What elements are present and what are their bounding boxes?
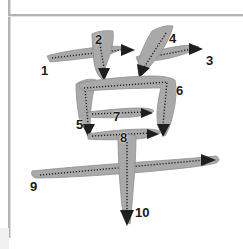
stroke-number-4: 4 (169, 32, 176, 45)
stroke-number-10: 10 (135, 206, 149, 219)
stroke-7 (88, 108, 154, 118)
stroke-number-9: 9 (30, 180, 37, 193)
stroke-6 (79, 76, 176, 137)
character-strokes (0, 0, 243, 249)
stroke-1 (47, 44, 135, 62)
stroke-number-1: 1 (41, 64, 48, 77)
stroke-10 (118, 135, 136, 227)
stroke-number-8: 8 (120, 131, 127, 144)
stroke-number-3: 3 (206, 54, 213, 67)
stroke-number-7: 7 (113, 110, 120, 123)
stroke-arrow-1 (121, 44, 135, 56)
stroke-arrow-10 (120, 210, 134, 226)
stroke-arrow-3 (189, 43, 203, 55)
stroke-number-5: 5 (76, 118, 83, 131)
stroke-number-6: 6 (176, 84, 183, 97)
stroke-number-2: 2 (95, 33, 102, 46)
stroke-order-diagram: 12345678910 (0, 0, 243, 249)
